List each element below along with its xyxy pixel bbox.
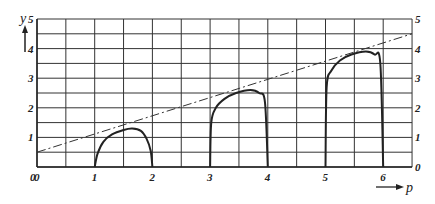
- chart: 0123456012345012345 y p: [0, 0, 435, 204]
- x-axis-arrow-icon: [376, 184, 404, 190]
- grid: [37, 19, 412, 167]
- x-axis-label: p: [405, 180, 413, 195]
- y-tick-label-left: 2: [27, 102, 34, 114]
- y-tick-label-left: 4: [27, 43, 34, 55]
- y-tick-label-right: 5: [415, 13, 421, 25]
- y-tick-label-right: 1: [415, 131, 421, 143]
- y-tick-label-left: 3: [27, 72, 34, 84]
- x-tick-label: 3: [206, 171, 213, 183]
- x-tick-label: 4: [264, 171, 271, 183]
- y-tick-label-right: 3: [414, 72, 421, 84]
- y-tick-label-left: 0: [30, 171, 36, 183]
- y-tick-label-right: 4: [414, 43, 421, 55]
- tick-labels: 0123456012345012345: [27, 13, 421, 183]
- y-axis-label: y: [18, 11, 27, 26]
- series: [37, 34, 412, 167]
- y-tick-label-left: 1: [28, 131, 34, 143]
- x-tick-label: 6: [380, 171, 386, 183]
- y-tick-label-right: 0: [415, 161, 421, 173]
- x-tick-label: 5: [323, 171, 329, 183]
- y-tick-label-left: 5: [28, 13, 34, 25]
- x-tick-label: 1: [92, 171, 98, 183]
- x-tick-label: 2: [148, 171, 155, 183]
- y-tick-label-right: 2: [414, 102, 421, 114]
